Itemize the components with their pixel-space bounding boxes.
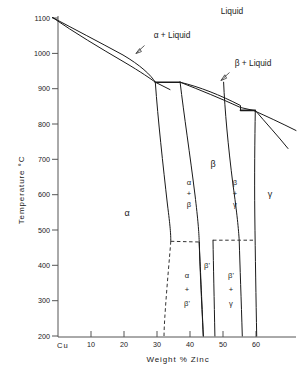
betaprime-inner-boundary-curve (199, 242, 203, 336)
gamma-liquidus-descending-curve (255, 110, 288, 148)
x-tick-label-30: 30 (153, 340, 161, 349)
field-label-beta: β (210, 159, 215, 169)
y-tick-label-500: 500 (38, 226, 50, 235)
field-label-gamma: γ (268, 189, 273, 199)
y-tick-label-1000: 1000 (34, 49, 50, 58)
x-axis-origin-label: Cu (57, 341, 69, 350)
y-tick-label-800: 800 (38, 120, 50, 129)
y-axis-title: Temperature °C (17, 156, 26, 225)
field-label-liquid: Liquid (221, 6, 244, 16)
x-tick-label-50: 50 (219, 340, 227, 349)
liquidus-curve-beta-region (180, 82, 253, 110)
gamma-left-boundary-curve (255, 110, 257, 336)
field-label-alpha-beta-line2: β (187, 200, 192, 209)
x-tick-label-40: 40 (186, 340, 194, 349)
field-label-alpha-plus-beta: α + β (187, 178, 192, 209)
field-label-betaprime-gamma-line2: γ (229, 299, 233, 308)
field-label-alpha-plus-betaprime: α + β' (184, 271, 190, 308)
y-tick-label-300: 300 (38, 296, 50, 305)
y-tick-label-400: 400 (38, 261, 50, 270)
x-tick-label-60: 60 (252, 340, 260, 349)
alpha-solvus-curve (155, 82, 171, 241)
field-label-betaprime-plus-gamma: β' + γ (228, 271, 234, 308)
field-label-alpha: α (124, 208, 129, 218)
liquidus-right-branch-curve (253, 110, 296, 130)
beta-solidus-curve (180, 82, 240, 110)
y-tick-label-600: 600 (38, 190, 50, 199)
field-label-beta-gamma-line1: β (233, 178, 238, 187)
field-label-betaprime-gamma-plus: + (229, 285, 234, 294)
field-label-alpha-betaprime-line2: β' (184, 299, 190, 308)
field-label-alpha-betaprime-plus: + (185, 285, 190, 294)
beta-right-boundary-curve (224, 82, 243, 336)
x-tick-label-10: 10 (87, 340, 95, 349)
field-label-alpha-betaprime-line1: α (185, 271, 190, 280)
y-tick-label-700: 700 (38, 155, 50, 164)
field-label-beta-plus-gamma: β + γ (233, 178, 238, 209)
y-tick-label-200: 200 (38, 332, 50, 341)
beta-left-boundary-curve (180, 82, 203, 336)
field-label-alpha-beta-line1: α (187, 178, 192, 187)
x-tick-label-20: 20 (120, 340, 128, 349)
axis-y: 1100 1000 900 800 700 600 500 400 300 20… (17, 14, 58, 341)
field-label-beta-liquid: β + Liquid (235, 58, 272, 68)
field-label-betaprime: β' (204, 261, 210, 270)
field-label-betaprime-gamma-line1: β' (228, 271, 234, 280)
y-tick-label-900: 900 (38, 84, 50, 93)
x-axis-title: Weight % Zinc (146, 355, 209, 364)
alpha-solvus-dashed-extension (164, 241, 171, 336)
field-label-alpha-beta-plus: + (187, 189, 192, 198)
field-label-beta-gamma-plus: + (233, 189, 238, 198)
field-label-beta-gamma-line2: γ (233, 200, 237, 209)
y-tick-label-1100: 1100 (35, 14, 50, 23)
phase-diagram-figure: 1100 1000 900 800 700 600 500 400 300 20… (0, 0, 301, 366)
ordering-line-left-dashed (171, 241, 199, 242)
betaprime-gamma-divider-curve (213, 240, 215, 336)
field-label-alpha-liquid: α + Liquid (154, 30, 191, 40)
axis-x: 10 20 30 40 50 60 Cu Weight % Zinc (57, 331, 296, 364)
phase-diagram-svg: 1100 1000 900 800 700 600 500 400 300 20… (0, 0, 301, 366)
